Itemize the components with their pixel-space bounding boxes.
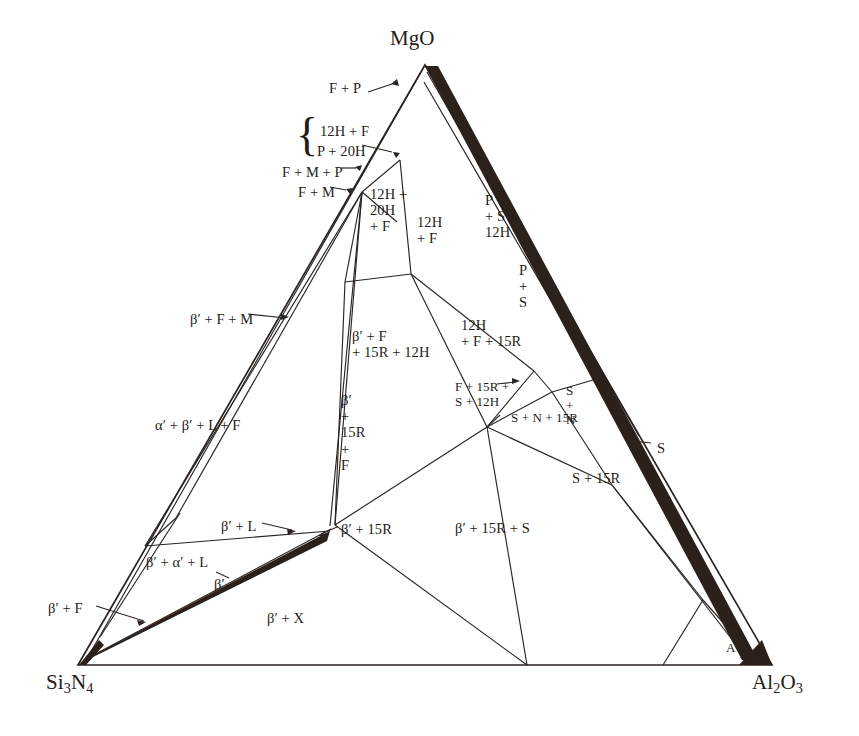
tie-lines [84,70,758,665]
region-label-bp-15r-s: β′ + 15R + S [455,520,530,536]
region-label-f-15r-s-12h: F + 15R + S + 12H [455,380,509,409]
region-label-ap-bp-l-f: α′ + β′ + L + F [155,417,240,433]
region-label-s-n-15r: S + N + 15R [511,411,578,426]
corner-label-mgo: MgO [390,27,435,51]
corner-label-al2o3: Al2O3 [752,671,803,696]
region-label-s-leader: S [657,440,665,456]
region-label-f-m: F + M [298,184,335,200]
region-label-bp-x: β′ + X [267,610,304,626]
triangle-outline [78,65,772,665]
region-label-s-15r: S + 15R [572,470,620,486]
region-label-a-corner: A [726,641,736,656]
region-label-12h-20h-f: 12H + 20H + F [370,186,407,235]
region-label-p-20h: P + 20H [317,143,366,159]
region-label-bp-ap-l: β′ + α′ + L [146,554,208,570]
region-label-bp-15r: β′ + 15R [341,521,392,537]
region-label-bp-15r-f: β′ + 15R + F [341,392,365,473]
al2o3-text: Al2O3 [752,670,803,694]
region-label-bp-l: β′ + L [221,518,256,534]
region-label-bp-f-15r-12h: β′ + F + 15R + 12H [352,328,429,360]
ternary-phase-diagram: MgO Si3N4 Al2O3 { F + P 12H + F P + 20H … [0,0,859,736]
region-label-p-s: P + S [519,262,527,311]
region-label-12h-f-15r: 12H + F + 15R [461,317,521,349]
brace-glyph: { [296,112,318,158]
region-label-12h-f-2: 12H + F [417,214,442,246]
region-label-s-corner: S [726,616,733,631]
corner-label-si3n4: Si3N4 [46,671,93,696]
solid-solution-bands [79,66,772,665]
region-label-bp-prime: β′ [214,576,225,592]
region-label-f-p: F + P [329,80,361,96]
si3n4-text: Si3N4 [46,670,93,694]
region-label-bp-f-m: β′ + F + M [190,311,253,327]
region-label-12h-f: 12H + F [320,123,369,139]
region-label-p-s-12h: P + S + 12H [485,192,517,241]
region-label-f-m-p: F + M + P [282,164,343,180]
region-label-bp-f: β′ + F [48,600,83,616]
